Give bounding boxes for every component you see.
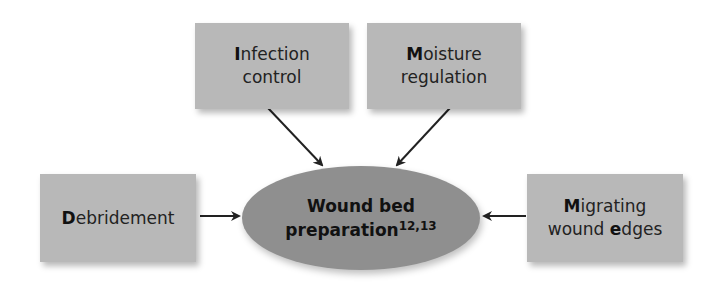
wound-bed-preparation-ellipse: Wound bed preparation12,13 — [242, 166, 480, 270]
infection-control-line1-text: nfection — [241, 44, 310, 64]
reference-superscript: 12,13 — [399, 219, 437, 233]
migrating-line1-text: igrating — [581, 196, 647, 216]
arrow-infection-to-center — [268, 108, 322, 165]
moisture-regulation-line1: Moisture — [401, 43, 487, 66]
migrating-wound-edges-line1: Migrating — [548, 195, 663, 218]
center-line1: Wound bed — [307, 194, 415, 218]
moisture-regulation-line2: regulation — [401, 66, 487, 89]
center-line2-text: preparation — [285, 220, 398, 240]
moisture-regulation-line1-text: oisture — [423, 44, 482, 64]
migrating-wound-edges-line2: wound edges — [548, 218, 663, 241]
infection-control-line2: control — [234, 66, 309, 89]
center-line2: preparation12,13 — [285, 218, 436, 242]
migrating-initial: M — [564, 196, 581, 216]
debridement-label-text: ebridement — [76, 208, 175, 228]
wound-bed-preparation-diagram: Infection control Moisture regulation De… — [0, 0, 715, 288]
infection-control-box: Infection control — [195, 23, 349, 109]
edges-initial: e — [610, 219, 622, 239]
debridement-initial: D — [62, 208, 76, 228]
moisture-regulation-initial: M — [406, 44, 423, 64]
arrow-moisture-to-center — [397, 108, 450, 165]
debridement-label: Debridement — [62, 207, 175, 230]
debridement-box: Debridement — [40, 174, 196, 262]
infection-control-line1: Infection — [234, 43, 309, 66]
migrating-wound-edges-box: Migrating wound edges — [527, 174, 683, 262]
wound-text: wound — [548, 219, 610, 239]
moisture-regulation-box: Moisture regulation — [367, 23, 521, 109]
edges-rest-text: dges — [621, 219, 662, 239]
